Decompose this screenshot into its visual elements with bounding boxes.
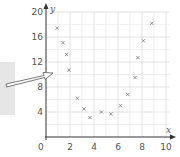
y-tick-label: 16	[32, 32, 44, 42]
y-tick-label: 4	[37, 107, 43, 117]
y-tick-label: 8	[37, 82, 43, 92]
x-axis-label: x	[166, 125, 171, 135]
data-point-x-marker	[119, 104, 122, 107]
x-axis-arrow-icon	[170, 135, 176, 140]
tick-labels: 024681048121620	[32, 7, 172, 152]
data-point-x-marker	[82, 107, 85, 110]
x-tick-label: 6	[115, 142, 121, 152]
axes: x y	[44, 3, 177, 140]
x-tick-label: 10	[160, 142, 172, 152]
data-point-x-marker	[126, 93, 129, 96]
y-tick-label: 12	[32, 57, 43, 67]
data-point-x-marker	[136, 56, 139, 59]
grid	[46, 12, 170, 137]
data-point-x-marker	[109, 112, 112, 115]
data-point-x-marker	[65, 53, 68, 56]
data-point-x-marker	[88, 116, 91, 119]
x-tick-label: 8	[139, 142, 145, 152]
scatter-chart: x y 024681048121620	[0, 0, 180, 157]
side-panel	[0, 62, 15, 115]
y-axis-label: y	[49, 4, 56, 14]
data-point-x-marker	[61, 41, 64, 44]
x-tick-label: 4	[91, 142, 97, 152]
y-tick-label: 20	[32, 7, 44, 17]
x-tick-label: 2	[67, 142, 73, 152]
data-point-x-marker	[133, 76, 136, 79]
x-tick-label: 0	[38, 142, 44, 152]
y-axis-arrow-icon	[44, 3, 49, 9]
